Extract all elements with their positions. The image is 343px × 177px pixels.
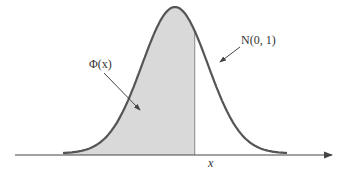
x-marker-label: x — [207, 156, 214, 170]
curve-label-arrow — [220, 47, 240, 62]
normal-distribution-diagram: N(0, 1) Φ(x) x — [0, 0, 343, 177]
curve-label: N(0, 1) — [241, 33, 276, 47]
area-label: Φ(x) — [89, 57, 112, 71]
cumulative-area — [63, 7, 195, 155]
